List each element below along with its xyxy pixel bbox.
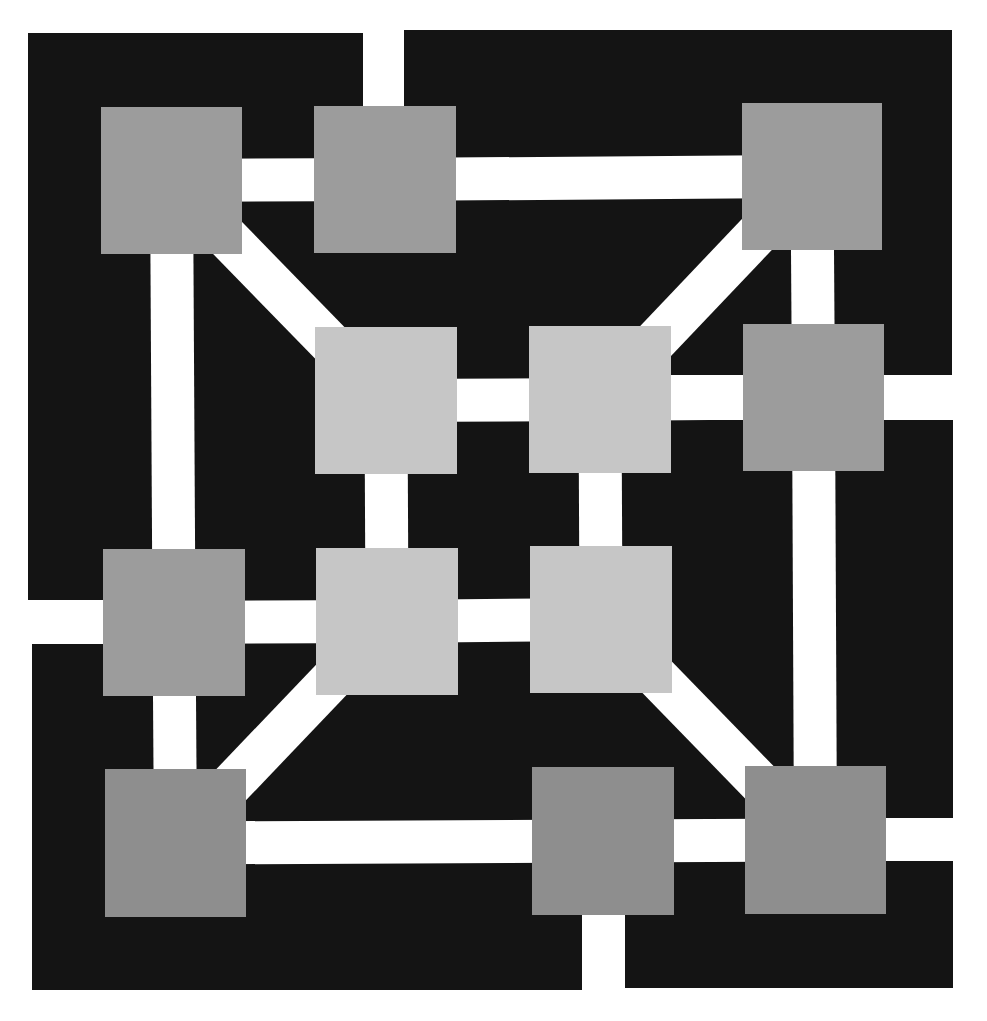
- node-n5: [529, 326, 671, 473]
- node-n4: [315, 327, 457, 474]
- edge-stub-bottom-exit: [582, 910, 625, 1021]
- edge-stub-top-exit: [363, 0, 404, 110]
- graph-diagram: [0, 0, 987, 1021]
- node-n11: [532, 767, 674, 915]
- edge-stub-right-exit-upper: [880, 376, 987, 419]
- node-n6: [743, 324, 884, 471]
- node-n9: [530, 546, 672, 693]
- edge-stub-left-exit: [0, 600, 110, 644]
- node-n7: [103, 549, 245, 696]
- edge-stub-right-exit-lower: [880, 818, 987, 861]
- node-n1: [101, 107, 242, 254]
- node-n8: [316, 548, 458, 695]
- node-n3: [742, 103, 882, 250]
- node-n12: [745, 766, 886, 914]
- node-n10: [105, 769, 246, 917]
- node-n2: [314, 106, 456, 253]
